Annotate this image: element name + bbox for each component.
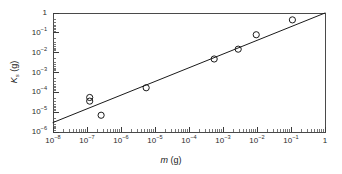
y-tick-label-1e-6: 10−6: [32, 128, 47, 136]
y-axis-title-variable: K: [9, 77, 19, 83]
y-axis-title: Ks (g): [10, 61, 19, 84]
x-axis-title-variable: m: [161, 155, 169, 165]
y-axis-title-subscript: s: [14, 74, 20, 77]
y-tick-label-1e-2: 10−2: [32, 49, 47, 57]
x-tick-label-1e-8: 10−8: [45, 137, 60, 145]
x-tick-label-1e-2: 10−2: [249, 137, 264, 145]
x-tick-label-1e-7: 10−7: [79, 137, 94, 145]
y-tick-label-1e-3: 10−3: [32, 69, 47, 77]
y-tick-label-1e-1: 10−1: [32, 29, 47, 37]
x-tick-label-1e-1: 10−1: [283, 137, 298, 145]
plot-canvas: [0, 0, 342, 174]
x-tick-label-1e-4: 10−4: [181, 137, 196, 145]
x-tick-label-1: 1: [323, 137, 327, 145]
plot-frame: [53, 13, 325, 132]
y-tick-label-1e-5: 10−5: [32, 108, 47, 116]
x-tick-label-1e-3: 10−3: [215, 137, 230, 145]
x-tick-label-1e-5: 10−5: [147, 137, 162, 145]
y-tick-label-1: 1: [43, 9, 47, 17]
chart-figure: 1 10−1 10−2 10−3 10−4 10−5 10−6 10−8 10−…: [0, 0, 342, 174]
y-tick-label-1e-4: 10−4: [32, 88, 47, 96]
x-axis-title-unit: (g): [168, 155, 182, 165]
y-axis-title-unit: (g): [9, 61, 19, 75]
x-tick-label-1e-6: 10−6: [113, 137, 128, 145]
x-axis-title: m (g): [161, 156, 182, 165]
